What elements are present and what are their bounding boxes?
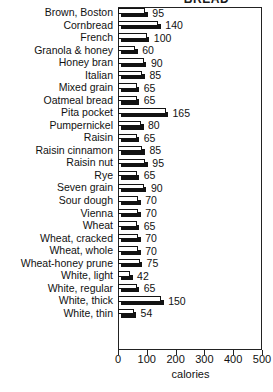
category-label: White, light <box>0 269 113 282</box>
bar-row: White, thin54 <box>0 308 273 321</box>
category-label: Italian <box>0 69 113 82</box>
bar-value-label: 90 <box>151 182 163 195</box>
category-label: Pumpernickel <box>0 119 113 132</box>
bar-value-label: 70 <box>145 232 157 245</box>
bar-value-label: 65 <box>144 169 156 182</box>
bar-face <box>118 159 145 164</box>
category-label: Rye <box>0 169 113 182</box>
bar-face <box>118 271 130 276</box>
category-label: Sour dough <box>0 194 113 207</box>
bar-face <box>118 196 138 201</box>
bar <box>118 95 141 108</box>
bar <box>118 107 170 120</box>
bar <box>118 57 148 70</box>
bar <box>118 132 141 145</box>
bar-face <box>118 134 137 139</box>
bar-face <box>118 259 140 264</box>
bar-value-label: 85 <box>149 69 161 82</box>
bar <box>118 283 141 296</box>
bar-value-label: 70 <box>145 245 157 258</box>
bar-face <box>118 309 134 314</box>
x-axis-tick-label: 500 <box>242 352 273 366</box>
category-label: Pita pocket <box>0 106 113 119</box>
bar-value-label: 60 <box>142 44 154 57</box>
bar-face <box>118 8 145 13</box>
category-label: Raisin cinnamon <box>0 144 113 157</box>
bar-face <box>118 83 137 88</box>
x-axis-tick-labels: 0100200300400500 <box>0 352 273 366</box>
bar-face <box>118 209 138 214</box>
category-label: Vienna <box>0 207 113 220</box>
bar <box>118 20 162 33</box>
bar-value-label: 165 <box>173 107 191 120</box>
bar <box>118 245 142 258</box>
bar-value-label: 65 <box>144 82 156 95</box>
category-label: Raisin <box>0 131 113 144</box>
bar <box>118 82 141 95</box>
category-label: White, thin <box>0 307 113 320</box>
bar-value-label: 42 <box>137 270 149 283</box>
category-label: Oatmeal bread <box>0 94 113 107</box>
bar-face <box>118 46 135 51</box>
bar <box>118 295 165 308</box>
bar-face <box>118 58 144 63</box>
category-label: Mixed grain <box>0 81 113 94</box>
category-label: Wheat-honey prune <box>0 257 113 270</box>
bar-face <box>118 146 142 151</box>
category-label: Wheat, cracked <box>0 232 113 245</box>
bar <box>118 157 149 170</box>
bar-face <box>118 296 161 301</box>
bar-face <box>118 33 147 38</box>
bar <box>118 220 141 233</box>
category-label: French <box>0 31 113 44</box>
category-label: White, regular <box>0 282 113 295</box>
bar-value-label: 90 <box>151 57 163 70</box>
category-label: White, thick <box>0 294 113 307</box>
bar-face <box>118 221 137 226</box>
bar <box>118 208 142 221</box>
bar-face <box>118 284 137 289</box>
bar <box>118 170 141 183</box>
bar-value-label: 54 <box>141 307 153 320</box>
bar-face <box>118 21 158 26</box>
bar-face <box>118 71 142 76</box>
bar-face <box>118 171 137 176</box>
category-label: Raisin nut <box>0 156 113 169</box>
bar-face <box>118 108 166 113</box>
bread-calories-bar-chart: BREAD Brown, Boston95Cornbread140French1… <box>0 0 273 392</box>
category-label: Seven grain <box>0 181 113 194</box>
bar-face <box>118 121 141 126</box>
bar <box>118 145 146 158</box>
category-label: Wheat, whole <box>0 244 113 257</box>
bar <box>118 7 149 20</box>
bar <box>118 308 138 321</box>
bar-value-label: 70 <box>145 207 157 220</box>
bar-value-label: 95 <box>152 7 164 20</box>
bar <box>118 233 142 246</box>
bar <box>118 195 142 208</box>
bar-value-label: 75 <box>147 257 159 270</box>
category-label: Wheat <box>0 219 113 232</box>
bar <box>118 270 134 283</box>
x-axis-title: calories <box>118 368 263 380</box>
bar-value-label: 65 <box>144 94 156 107</box>
chart-title: BREAD <box>150 0 263 5</box>
bar-value-label: 140 <box>165 19 183 32</box>
category-label: Honey bran <box>0 56 113 69</box>
bar-value-label: 65 <box>144 282 156 295</box>
bar-rows-container: Brown, Boston95Cornbread140French100Gran… <box>0 7 273 320</box>
bar-value-label: 65 <box>144 132 156 145</box>
bar-value-label: 85 <box>149 144 161 157</box>
category-label: Brown, Boston <box>0 6 113 19</box>
bar-value-label: 150 <box>168 295 186 308</box>
bar-face <box>118 234 138 239</box>
bar <box>118 258 144 271</box>
bar <box>118 120 145 133</box>
bar <box>118 45 139 58</box>
bar <box>118 70 146 83</box>
bar-value-label: 100 <box>154 32 172 45</box>
category-label: Granola & honey <box>0 44 113 57</box>
bar-value-label: 70 <box>145 194 157 207</box>
bar-face <box>118 184 144 189</box>
bar-face <box>118 246 138 251</box>
